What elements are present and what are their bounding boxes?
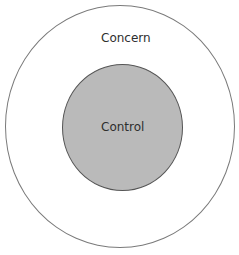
concern-label: Concern — [101, 31, 146, 45]
control-label: Control — [101, 120, 143, 134]
circle-of-concern-diagram: Concern Control — [0, 0, 239, 255]
